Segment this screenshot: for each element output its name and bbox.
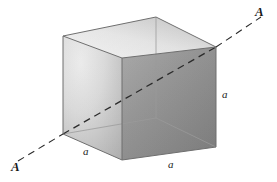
axis-line-upper-tail — [216, 17, 261, 47]
cube-diagram-canvas — [0, 0, 277, 182]
cube-body — [63, 17, 216, 160]
axis-line-lower-tail — [18, 134, 63, 161]
edge-label-a-left: a — [83, 146, 89, 157]
axis-label-lower-left: A — [11, 160, 20, 173]
cube-diagram-figure: a a a A A — [0, 0, 277, 182]
cube-surface-wash — [63, 17, 216, 160]
axis-label-upper-right: A — [255, 5, 264, 18]
edge-label-a-front: a — [168, 159, 174, 170]
edge-label-a-vertical: a — [222, 89, 228, 100]
